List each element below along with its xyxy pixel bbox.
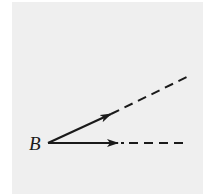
diagram-canvas: B (0, 0, 217, 194)
upper-ray-solid-segment (48, 114, 111, 143)
vertex-label-b: B (29, 134, 41, 153)
rays-diagram (0, 0, 217, 194)
upper-ray-dashed-segment (111, 75, 191, 114)
